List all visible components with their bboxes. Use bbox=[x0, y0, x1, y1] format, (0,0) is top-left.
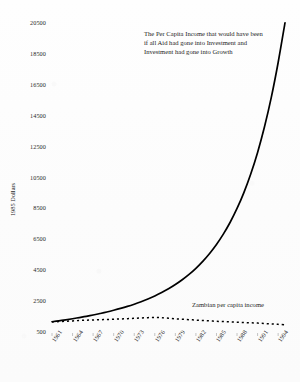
y-axis-tick-label: 14500 bbox=[8, 111, 46, 118]
chart-figure: 5002500450065008500105001250014500165001… bbox=[0, 0, 300, 382]
series-line-counterfactual bbox=[52, 23, 285, 322]
y-axis-tick-label: 20500 bbox=[8, 19, 46, 26]
y-axis-tick-label: 4500 bbox=[8, 266, 46, 273]
annotation-counterfactual-label: The Per Capita Income that would have be… bbox=[144, 29, 266, 56]
series-line-zambian bbox=[52, 317, 285, 324]
y-axis-tick-label: 500 bbox=[8, 328, 46, 335]
annotation-zambian-income-label: Zambian per capita income bbox=[192, 300, 287, 309]
y-axis-tick-label: 12500 bbox=[8, 142, 46, 149]
y-axis-tick-label: 2500 bbox=[8, 297, 46, 304]
y-axis-title: 1985 Dollars bbox=[9, 170, 16, 230]
y-axis-tick-label: 16500 bbox=[8, 80, 46, 87]
y-axis-tick-label: 6500 bbox=[8, 235, 46, 242]
y-axis-tick-label: 18500 bbox=[8, 49, 46, 56]
chart-plot-area bbox=[0, 0, 300, 382]
